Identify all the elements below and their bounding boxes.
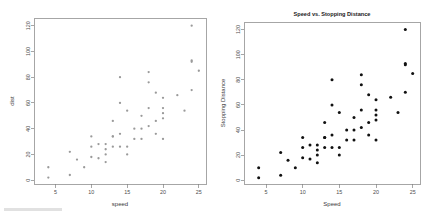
- data-point: [90, 146, 92, 148]
- y-tick-label: 60: [25, 100, 31, 106]
- data-point: [353, 116, 356, 119]
- data-point: [397, 111, 400, 114]
- data-point: [47, 166, 49, 168]
- y-tick-label: 100: [235, 50, 241, 59]
- x-tick-label: 15: [336, 189, 342, 195]
- data-point: [148, 71, 150, 73]
- x-tick-label: 25: [196, 189, 202, 195]
- data-point: [191, 89, 193, 91]
- data-point: [338, 111, 341, 114]
- data-point: [140, 128, 142, 130]
- right-plot-svg: 510152025020406080100120SpeedStopping Di…: [216, 0, 432, 214]
- data-point: [198, 70, 200, 72]
- data-point: [148, 125, 150, 127]
- data-point: [76, 158, 78, 160]
- data-point: [257, 176, 260, 179]
- left-plot-svg: 510152025020406080100120speeddist: [0, 0, 216, 214]
- data-point: [323, 146, 326, 149]
- data-point: [162, 112, 164, 114]
- data-point: [294, 166, 297, 169]
- data-point: [257, 166, 260, 169]
- plot-frame: [34, 18, 206, 184]
- data-point: [191, 59, 193, 61]
- data-point: [162, 107, 164, 109]
- data-point: [309, 157, 312, 160]
- data-point: [404, 62, 407, 65]
- data-point: [316, 161, 319, 164]
- data-point: [279, 151, 282, 154]
- data-point: [133, 128, 135, 130]
- data-point: [183, 110, 185, 112]
- data-points-group: [257, 28, 414, 179]
- data-point: [338, 154, 341, 157]
- data-point: [126, 146, 128, 148]
- data-point: [97, 143, 99, 145]
- x-tick-label: 5: [54, 189, 57, 195]
- data-point: [345, 139, 348, 142]
- x-axis-title: Speed: [323, 201, 340, 207]
- data-point: [360, 108, 363, 111]
- y-tick-label: 20: [25, 151, 31, 157]
- data-point: [375, 139, 378, 142]
- data-point: [375, 113, 378, 116]
- data-point: [345, 129, 348, 132]
- data-point: [119, 133, 121, 135]
- data-point: [375, 108, 378, 111]
- data-point: [155, 120, 157, 122]
- data-point: [338, 146, 341, 149]
- y-tick-label: 20: [235, 152, 241, 158]
- data-point: [90, 135, 92, 137]
- data-point: [162, 117, 164, 119]
- data-point: [331, 146, 334, 149]
- data-point: [133, 138, 135, 140]
- data-point: [367, 134, 370, 137]
- y-tick-label: 80: [25, 74, 31, 80]
- data-point: [47, 176, 49, 178]
- data-point: [112, 146, 114, 148]
- data-point: [331, 134, 334, 137]
- data-point: [140, 115, 142, 117]
- data-point: [287, 159, 290, 162]
- data-point: [105, 143, 107, 145]
- y-tick-label: 120: [235, 25, 241, 34]
- data-point: [411, 72, 414, 75]
- data-point: [148, 81, 150, 83]
- data-point: [375, 98, 378, 101]
- data-point: [301, 136, 304, 139]
- x-tick-label: 25: [410, 189, 416, 195]
- y-tick-label: 40: [235, 127, 241, 133]
- plot-title: Speed vs. Stopping Distance: [294, 11, 371, 17]
- data-point: [323, 121, 326, 124]
- data-point: [97, 157, 99, 159]
- data-point: [360, 73, 363, 76]
- y-tick-label: 120: [25, 21, 31, 30]
- data-point: [119, 102, 121, 104]
- bottom-edge-artifact: [4, 208, 62, 211]
- data-point: [360, 83, 363, 86]
- data-point: [367, 121, 370, 124]
- data-point: [126, 153, 128, 155]
- data-point: [404, 28, 407, 31]
- data-point: [119, 146, 121, 148]
- data-point: [353, 139, 356, 142]
- data-points-group: [47, 25, 200, 179]
- data-point: [323, 136, 326, 139]
- x-tick-label: 10: [300, 189, 306, 195]
- data-point: [162, 138, 164, 140]
- data-point: [69, 174, 71, 176]
- x-tick-label: 15: [124, 189, 130, 195]
- data-point: [148, 107, 150, 109]
- data-point: [375, 118, 378, 121]
- y-tick-label: 0: [25, 179, 31, 182]
- data-point: [360, 126, 363, 129]
- y-tick-label: 40: [25, 126, 31, 132]
- left-plot-panel: 510152025020406080100120speeddist: [0, 0, 216, 214]
- figure-canvas: 510152025020406080100120speeddist 510152…: [0, 0, 432, 214]
- data-point: [105, 153, 107, 155]
- x-tick-label: 10: [88, 189, 94, 195]
- plot-frame: [244, 22, 420, 184]
- x-tick-label: 20: [373, 189, 379, 195]
- data-point: [279, 174, 282, 177]
- data-point: [331, 103, 334, 106]
- data-point: [119, 76, 121, 78]
